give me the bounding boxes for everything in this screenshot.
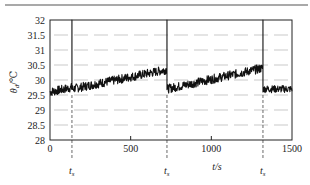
y-tick-label: 31 xyxy=(35,45,45,56)
y-axis-ticks: 2828.52929.53030.53131.532 xyxy=(28,15,46,146)
temperature-line xyxy=(50,20,292,95)
y-tick-label: 31.5 xyxy=(28,30,46,41)
y-tick-label: 32 xyxy=(35,15,45,26)
ts-label: ts xyxy=(69,165,75,178)
ts-label: ts xyxy=(164,165,170,178)
y-tick-label: 30 xyxy=(35,75,45,86)
y-tick-label: 29.5 xyxy=(28,90,46,101)
y-tick-label: 28 xyxy=(35,135,45,146)
x-tick-label: 500 xyxy=(123,143,138,154)
ts-marker-lines xyxy=(72,95,263,160)
y-tick-label: 30.5 xyxy=(28,60,46,71)
data-series xyxy=(50,20,292,95)
x-axis-ticks: 050010001500 xyxy=(48,136,303,154)
x-tick-label: 1500 xyxy=(282,143,302,154)
ts-label: ts xyxy=(260,165,266,178)
ts-labels: tststs xyxy=(69,165,266,178)
y-axis-label: θd/℃ xyxy=(8,71,21,93)
temperature-chart: 2828.52929.53030.53131.532 050010001500 … xyxy=(0,0,310,185)
x-tick-label: 1000 xyxy=(201,143,221,154)
y-tick-label: 28.5 xyxy=(28,120,46,131)
x-tick-label: 0 xyxy=(48,143,53,154)
y-tick-label: 29 xyxy=(35,105,45,116)
grid-lines xyxy=(54,35,288,125)
x-axis-label: t/s xyxy=(212,161,222,172)
